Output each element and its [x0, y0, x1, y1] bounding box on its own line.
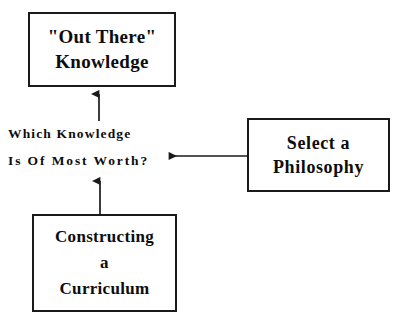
node-select-a-philosophy-line-1: Select a: [287, 131, 350, 155]
node-constructing-a-curriculum-line-1: Constructing: [55, 224, 154, 250]
label-which-knowledge-line-1: Which Knowledge: [8, 120, 164, 147]
diagram-canvas: "Out There" Knowledge Select a Philosoph…: [0, 0, 403, 325]
node-select-a-philosophy-line-2: Philosophy: [273, 155, 364, 179]
node-select-a-philosophy[interactable]: Select a Philosophy: [247, 118, 390, 192]
node-constructing-a-curriculum[interactable]: Constructing a Curriculum: [32, 214, 177, 312]
label-which-knowledge-is-of-most-worth: Which Knowledge Is Of Most Worth?: [8, 120, 164, 174]
node-out-there-knowledge-line-2: Knowledge: [55, 50, 148, 75]
node-out-there-knowledge[interactable]: "Out There" Knowledge: [28, 12, 176, 87]
node-out-there-knowledge-line-1: "Out There": [48, 25, 157, 50]
node-constructing-a-curriculum-line-3: Curriculum: [60, 276, 150, 302]
label-which-knowledge-line-2: Is Of Most Worth?: [8, 147, 164, 174]
node-constructing-a-curriculum-line-2: a: [100, 250, 109, 276]
